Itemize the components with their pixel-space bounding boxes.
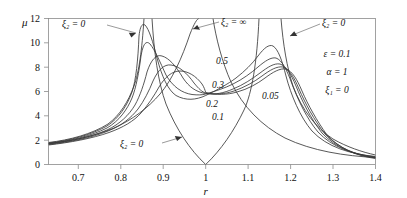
y-axis-tick-labels: 12 10 8 6 4 2 0 [30, 13, 40, 170]
annotation-right-zero-text: ξ₂ = 0 [322, 18, 346, 29]
annotation-infinity: ξ₂ = ∞ [193, 17, 247, 30]
curve-xi2-infinity-right [213, 19, 376, 158]
chart-figure: 12 10 8 6 4 2 0 μ 0.7 0.8 0.9 1 1.1 1.2 … [0, 0, 407, 198]
annotation-right-zero: ξ₂ = 0 [290, 18, 346, 36]
curve-label-0-5: 0.5 [216, 56, 228, 66]
x-tick-0-9: 0.9 [157, 172, 170, 183]
y-tick-0: 0 [35, 159, 40, 170]
parameter-block: ε = 0.1 α = 1 ξ₁ = 0 [324, 49, 351, 96]
arrowhead-left [129, 33, 136, 38]
curve-xi2-infinity [49, 19, 200, 144]
x-axis-tick-labels: 0.7 0.8 0.9 1 1.1 1.2 1.3 1.4 [72, 172, 382, 183]
x-tick-1-1: 1.1 [242, 172, 255, 183]
y-axis-label: μ [21, 16, 28, 28]
y-tick-12: 12 [30, 13, 40, 24]
y-tick-4: 4 [35, 110, 40, 121]
curve-xi2-zero-left [49, 19, 145, 143]
curve-label-0-2: 0.2 [206, 99, 218, 109]
x-tick-0-7: 0.7 [72, 172, 85, 183]
annotation-left-zero-text: ξ₂ = 0 [62, 19, 86, 30]
param-epsilon: ε = 0.1 [324, 49, 351, 59]
param-alpha: α = 1 [327, 67, 348, 77]
y-tick-6: 6 [35, 86, 40, 97]
curve-labels: 0.5 0.3 0.2 0.1 0.05 [206, 56, 279, 122]
x-tick-1-2: 1.2 [284, 172, 297, 183]
param-xi1: ξ₁ = 0 [325, 85, 349, 96]
x-tick-1: 1 [203, 172, 208, 183]
x-axis-ticks [78, 165, 375, 170]
x-tick-0-8: 0.8 [115, 172, 128, 183]
curve-label-0-1: 0.1 [212, 112, 224, 122]
x-axis-label: r [204, 185, 209, 197]
annotation-bottom-zero-text: ξ₂ = 0 [120, 139, 144, 150]
annotation-left-zero: ξ₂ = 0 [62, 19, 136, 38]
curve-label-0-3: 0.3 [212, 80, 224, 90]
x-tick-1-3: 1.3 [327, 172, 340, 183]
annotation-bottom-zero: ξ₂ = 0 [120, 136, 182, 150]
frequency-response-chart: 12 10 8 6 4 2 0 μ 0.7 0.8 0.9 1 1.1 1.2 … [0, 0, 407, 198]
y-tick-8: 8 [35, 62, 40, 73]
y-tick-2: 2 [35, 135, 40, 146]
y-tick-10: 10 [30, 37, 40, 48]
x-tick-1-4: 1.4 [369, 172, 382, 183]
annotation-infinity-text: ξ₂ = ∞ [221, 17, 247, 28]
curve-label-0-05: 0.05 [262, 91, 279, 101]
y-axis-ticks [44, 19, 49, 165]
